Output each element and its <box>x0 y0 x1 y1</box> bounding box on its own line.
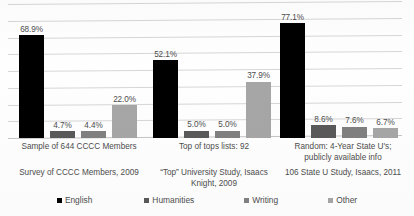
bar-slot: 8.6% <box>311 4 336 138</box>
bar[interactable]: 77.1% <box>280 23 305 138</box>
bar-group: 68.9%4.7%4.4%22.0% <box>8 4 148 138</box>
bar-value-label: 37.9% <box>247 71 270 80</box>
bar-slot: 52.1% <box>153 4 178 138</box>
bar-value-label: 77.1% <box>281 13 304 22</box>
category-source-label: 106 State U Study, Isaacs, 2011 <box>278 167 408 191</box>
grouped-bar-chart: 68.9%4.7%4.4%22.0%52.1%5.0%5.0%37.9%77.1… <box>0 0 414 216</box>
legend-item[interactable]: Humanities <box>144 195 194 205</box>
bar-slot: 5.0% <box>184 4 209 138</box>
legend-item[interactable]: English <box>57 195 92 205</box>
bar[interactable]: 6.7% <box>373 128 398 138</box>
bar[interactable]: 4.7% <box>50 131 75 138</box>
plot-area: 68.9%4.7%4.4%22.0%52.1%5.0%5.0%37.9%77.1… <box>8 4 402 138</box>
bar[interactable]: 8.6% <box>311 125 336 138</box>
legend-item[interactable]: Writing <box>244 195 278 205</box>
bar[interactable]: 52.1% <box>153 60 178 138</box>
bar-slot: 4.4% <box>81 4 106 138</box>
chart-legend: EnglishHumanitiesWritingOther <box>0 195 414 205</box>
bar-slot: 22.0% <box>112 4 137 138</box>
legend-swatch-icon <box>244 198 249 203</box>
legend-label: Writing <box>252 195 278 205</box>
bar-slot: 5.0% <box>215 4 240 138</box>
category-labels-source: Survey of CCCC Members, 2009“Top” Univer… <box>8 167 408 191</box>
category-source-label: “Top” University Study, Isaacs Knight, 2… <box>150 167 278 191</box>
bar-value-label: 4.7% <box>53 121 71 130</box>
bar[interactable]: 68.9% <box>19 35 44 138</box>
bar-value-label: 7.6% <box>345 116 363 125</box>
bar-slot: 37.9% <box>246 4 271 138</box>
category-label: Random: 4-Year State U's; publicly avail… <box>278 141 408 167</box>
bar[interactable]: 37.9% <box>246 82 271 138</box>
bar-value-label: 4.4% <box>84 121 102 130</box>
legend-label: Other <box>336 195 357 205</box>
bar-slot: 77.1% <box>280 4 305 138</box>
bar-value-label: 5.0% <box>187 120 205 129</box>
legend-swatch-icon <box>328 198 333 203</box>
bar[interactable]: 22.0% <box>112 105 137 138</box>
legend-swatch-icon <box>144 198 149 203</box>
bar-slot: 7.6% <box>342 4 367 138</box>
category-source-label: Survey of CCCC Members, 2009 <box>8 167 150 191</box>
bar[interactable]: 7.6% <box>342 127 367 138</box>
bar-group: 52.1%5.0%5.0%37.9% <box>148 4 276 138</box>
bar[interactable]: 5.0% <box>215 131 240 138</box>
legend-label: English <box>65 195 92 205</box>
category-label: Sample of 644 CCCC Members <box>8 141 150 167</box>
legend-label: Humanities <box>152 195 194 205</box>
bar-value-label: 22.0% <box>113 95 136 104</box>
bar-value-label: 68.9% <box>20 25 43 34</box>
bar-value-label: 5.0% <box>218 120 236 129</box>
bar-value-label: 8.6% <box>314 115 332 124</box>
bar[interactable]: 5.0% <box>184 131 209 138</box>
bar[interactable]: 4.4% <box>81 131 106 138</box>
category-label: Top of tops lists: 92 <box>150 141 278 167</box>
bar-group: 77.1%8.6%7.6%6.7% <box>276 4 402 138</box>
legend-swatch-icon <box>57 198 62 203</box>
bar-slot: 4.7% <box>50 4 75 138</box>
legend-item[interactable]: Other <box>328 195 357 205</box>
bar-slot: 6.7% <box>373 4 398 138</box>
bar-value-label: 6.7% <box>376 118 394 127</box>
bars-layer: 68.9%4.7%4.4%22.0%52.1%5.0%5.0%37.9%77.1… <box>8 4 402 138</box>
bar-slot: 68.9% <box>19 4 44 138</box>
category-labels-primary: Sample of 644 CCCC MembersTop of tops li… <box>8 141 408 167</box>
bar-value-label: 52.1% <box>154 50 177 59</box>
